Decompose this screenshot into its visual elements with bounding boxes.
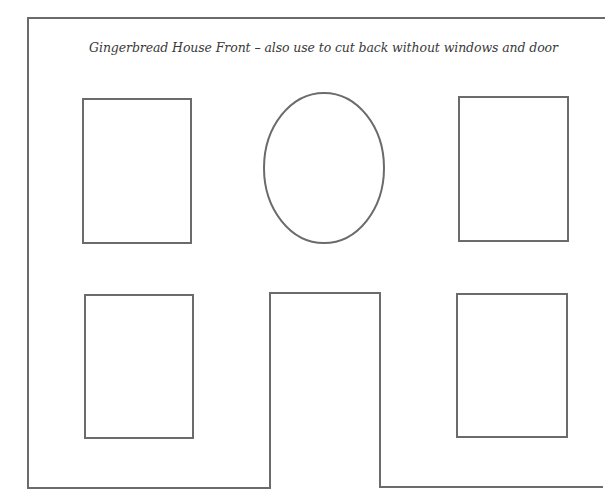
window-lower-right: [457, 294, 567, 437]
template-page: Gingerbread House Front – also use to cu…: [0, 0, 605, 503]
gingerbread-front-drawing: [0, 0, 605, 503]
outline-border: [28, 18, 605, 488]
window-lower-left: [85, 295, 193, 438]
window-upper-right: [459, 97, 568, 241]
document-title: Gingerbread House Front – also use to cu…: [0, 40, 605, 55]
oval-window: [264, 93, 384, 243]
window-upper-left: [83, 99, 191, 243]
